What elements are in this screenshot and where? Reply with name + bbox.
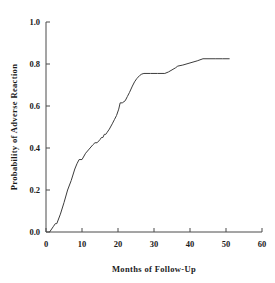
x-axis-ticks: [46, 228, 262, 232]
x-tick-label: 40: [186, 239, 195, 249]
y-tick-label: 0.8: [29, 59, 40, 69]
y-tick-label: 0.2: [29, 185, 40, 195]
y-axis-title: Probability of Adverse Reaction: [9, 64, 19, 191]
y-tick-label: 1.0: [29, 17, 40, 27]
data-series-group: [50, 59, 230, 232]
adverse-reaction-curve: [50, 59, 230, 232]
y-tick-label: 0.0: [29, 227, 40, 237]
y-axis-ticks: [46, 22, 50, 232]
x-tick-label: 60: [258, 239, 267, 249]
x-tick-label: 0: [44, 239, 48, 249]
y-axis-tick-labels: 0.00.20.40.60.81.0: [29, 17, 40, 237]
y-tick-label: 0.4: [29, 143, 40, 153]
x-tick-label: 50: [222, 239, 231, 249]
x-axis-group: 0102030405060 Months of Follow-Up: [44, 228, 266, 274]
x-tick-label: 10: [78, 239, 87, 249]
y-axis-group: 0.00.20.40.60.81.0 Probability of Advers…: [9, 17, 50, 237]
x-axis-tick-labels: 0102030405060: [44, 239, 266, 249]
x-tick-label: 20: [114, 239, 123, 249]
chart-figure: 0.00.20.40.60.81.0 Probability of Advers…: [0, 0, 275, 283]
cumulative-incidence-chart: 0.00.20.40.60.81.0 Probability of Advers…: [0, 0, 275, 283]
x-tick-label: 30: [150, 239, 159, 249]
x-axis-title: Months of Follow-Up: [112, 264, 196, 274]
y-tick-label: 0.6: [29, 101, 40, 111]
